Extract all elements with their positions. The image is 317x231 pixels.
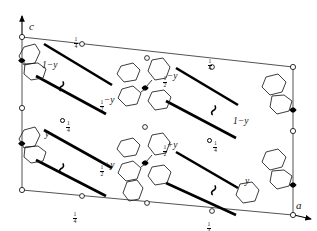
height-label-lower-right-half-plus-y: 12+y	[163, 141, 177, 157]
inversion-centre-right-mid	[290, 128, 295, 133]
molecule-bottom-centre	[123, 180, 143, 201]
glide-arrow-2	[36, 76, 106, 114]
molecule-centre-lower-left	[117, 138, 140, 157]
circle-quarter-label-right: 14	[207, 131, 217, 153]
two-fold-axis-right-upper	[289, 107, 296, 112]
two-fold-axis-centre-lower	[142, 160, 149, 165]
edge-label-bottom-right-quarter: 14	[207, 212, 211, 231]
inversion-centre-tl	[19, 34, 24, 39]
crystal-structure-diagram: c a 14 14 14 14 1−y 1−y y y 12−y 12−y 12…	[0, 0, 317, 231]
glide-arrow-8	[166, 183, 236, 215]
glide-arrow-3	[176, 68, 238, 105]
molecule-centre-upper-left	[117, 63, 140, 82]
molecule-right-lower	[262, 149, 292, 189]
two-fold-axis-centre-upper	[142, 85, 149, 90]
molecule-centre-lower-lower-right	[148, 165, 171, 185]
molecule-right-upper	[262, 74, 292, 114]
circle-quarter-label-left: 14	[60, 111, 70, 133]
glide-arrow-6	[36, 160, 106, 196]
screw-hook-3	[60, 164, 64, 173]
axis-label-a: a	[296, 200, 302, 211]
height-label-lower-right-y: y	[245, 177, 249, 187]
height-label-upper-right-half-minus-y: 12−y	[163, 72, 177, 88]
height-label-upper-left: 1−y	[42, 61, 57, 71]
height-label-lower-mid-half-plus-y: 12+y	[100, 161, 114, 177]
edge-label-top-right-quarter: 14	[208, 49, 212, 71]
height-label-upper-mid-half-minus-y: 12−y	[100, 96, 114, 112]
edge-label-bottom-left-quarter: 14	[73, 202, 77, 224]
height-label-lower-left-y: y	[45, 130, 49, 140]
axis-a	[294, 215, 311, 219]
height-label-right-1-minus-y: 1−y	[233, 117, 248, 127]
molecule-centre-upper-lower-left	[118, 86, 145, 106]
inversion-centre-bl	[19, 187, 24, 192]
molecule-centre-upper-lower-right	[148, 90, 171, 110]
inversion-centre-br	[290, 212, 295, 217]
edge-label-top-left-quarter: 14	[74, 27, 78, 49]
inversion-centre-left-mid	[19, 105, 24, 110]
screw-hook-2	[212, 106, 216, 115]
open-circle-marker-icon	[207, 138, 212, 143]
inversion-centre-tr	[290, 64, 295, 69]
screw-hook-4	[212, 186, 216, 195]
axis-label-c: c	[29, 21, 34, 32]
two-fold-axis-right-lower	[289, 182, 296, 187]
inversion-centre-bot-a	[80, 194, 85, 199]
glide-arrow-4	[166, 101, 236, 138]
inversion-centre-top-a	[80, 42, 85, 47]
glide-arrow-7	[176, 152, 238, 188]
inversion-centre-top-b	[145, 56, 150, 61]
molecule-centre-lower-lower-left	[118, 161, 145, 181]
diagram-canvas	[0, 0, 317, 231]
inversion-centre-bot-b	[145, 201, 150, 206]
inversion-centre-centre	[143, 125, 148, 130]
open-circle-marker-icon	[60, 118, 65, 123]
